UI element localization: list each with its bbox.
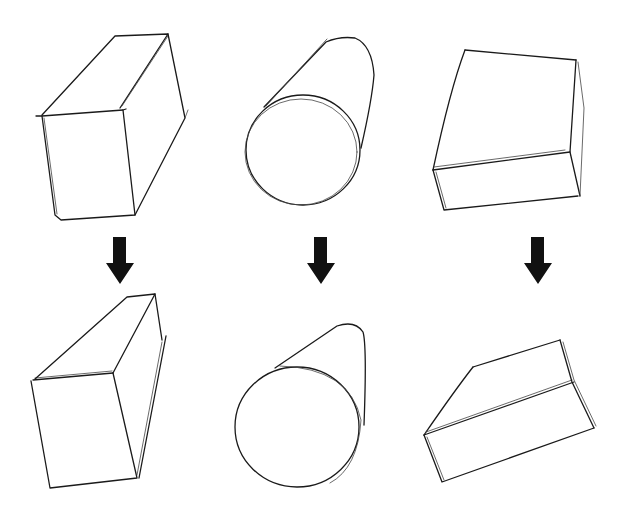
box-after: [31, 294, 166, 488]
sketch-drawing: [0, 0, 627, 523]
down-arrow-icon-2: [307, 237, 335, 284]
flat-box-before: [433, 50, 584, 210]
cylinder-after: [235, 324, 365, 487]
flat-box-after: [424, 340, 596, 482]
down-arrow-icon-3: [524, 237, 552, 284]
box-before: [36, 34, 188, 220]
cylinder-before: [245, 38, 374, 206]
down-arrow-icon-1: [106, 237, 134, 284]
